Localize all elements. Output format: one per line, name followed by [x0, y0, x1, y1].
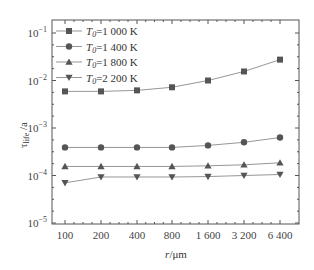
- series-triangle-up: [61, 159, 283, 169]
- series-triangle-down: [61, 172, 283, 187]
- y-tick-label: 10−2: [27, 73, 47, 87]
- y-tick-label: 10−3: [27, 120, 47, 134]
- legend-label: T0=1 400 K: [86, 41, 138, 55]
- x-tick-label: 400: [129, 229, 146, 241]
- x-tick-label: 100: [57, 229, 74, 241]
- circle-marker: [134, 144, 140, 150]
- x-axis-title: r/μm: [165, 248, 187, 260]
- square-marker: [277, 57, 283, 63]
- legend-label: T0=1 800 K: [86, 56, 138, 70]
- circle-marker: [205, 142, 211, 148]
- legend-item: T0=2 200 K: [56, 72, 138, 86]
- legend: T0=1 000 KT0=1 400 KT0=1 800 KT0=2 200 K: [56, 25, 138, 86]
- circle-marker: [241, 139, 247, 145]
- circle-marker: [98, 144, 104, 150]
- triangle-down-marker: [61, 180, 68, 186]
- square-marker: [241, 68, 247, 74]
- x-tick-label: 800: [164, 229, 181, 241]
- triangle-up-marker: [276, 159, 283, 165]
- y-axis: 10−110−210−310−410−5: [27, 25, 299, 229]
- square-marker: [98, 88, 104, 94]
- legend-label: T0=2 200 K: [86, 72, 138, 86]
- x-tick-label: 6 400: [268, 229, 293, 241]
- square-marker: [205, 78, 211, 84]
- square-marker: [62, 88, 68, 94]
- y-tick-label: 10−5: [27, 215, 47, 229]
- lifetime-vs-radius-chart: 10−110−210−310−410−5 1002004008001 6003 …: [0, 0, 314, 270]
- circle-legend-icon: [66, 43, 72, 49]
- x-tick-label: 200: [93, 229, 110, 241]
- legend-item: T0=1 800 K: [56, 56, 138, 70]
- y-tick-label: 10−1: [27, 25, 47, 39]
- legend-item: T0=1 400 K: [56, 41, 138, 55]
- circle-marker: [169, 144, 175, 150]
- circle-marker: [62, 144, 68, 150]
- y-tick-label: 10−4: [27, 168, 47, 182]
- x-tick-label: 3 200: [232, 229, 257, 241]
- series-circle: [62, 134, 283, 150]
- y-axis-title: τlife /a: [17, 122, 31, 148]
- x-tick-label: 1 600: [196, 229, 221, 241]
- legend-label: T0=1 000 K: [86, 25, 138, 39]
- square-marker: [134, 87, 140, 93]
- square-legend-icon: [66, 28, 72, 34]
- legend-item: T0=1 000 K: [56, 25, 138, 39]
- svg-text:τlife /a: τlife /a: [17, 122, 31, 148]
- circle-marker: [277, 134, 283, 140]
- square-marker: [169, 84, 175, 90]
